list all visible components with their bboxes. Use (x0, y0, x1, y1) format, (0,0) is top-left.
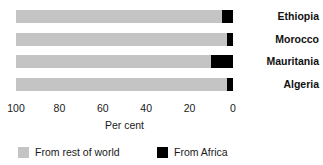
legend-label-rest-of-world: From rest of world (35, 146, 120, 158)
category-label-algeria: Algeria (283, 78, 319, 91)
bar-segment-rest-of-world (16, 10, 222, 23)
x-axis-tick-label: 0 (230, 101, 236, 115)
x-axis-tick-label: 40 (140, 101, 152, 115)
bar-row (16, 55, 233, 68)
x-axis-tick-label: 60 (97, 101, 109, 115)
bar-row (16, 33, 233, 46)
legend-item-rest-of-world: From rest of world (18, 143, 120, 161)
category-axis-labels: Ethiopia Morocco Mauritania Algeria (236, 8, 321, 100)
legend-item-africa: From Africa (157, 143, 228, 161)
bar-segment-africa (211, 55, 233, 68)
bar-segment-rest-of-world (16, 55, 211, 68)
bar-segment-rest-of-world (16, 33, 226, 46)
x-axis-tick-label: 80 (54, 101, 66, 115)
bar-segment-rest-of-world (16, 78, 226, 91)
x-axis-tick-label: 100 (7, 101, 25, 115)
bar-segment-africa (222, 10, 233, 23)
x-axis-title: Per cent (16, 119, 233, 131)
legend-swatch-africa (157, 147, 168, 158)
category-label-mauritania: Mauritania (266, 55, 319, 68)
chart-legend: From rest of world From Africa (0, 143, 323, 161)
category-label-ethiopia: Ethiopia (278, 10, 319, 23)
legend-label-africa: From Africa (174, 146, 228, 158)
bar-segment-africa (227, 33, 234, 46)
bar-row (16, 78, 233, 91)
legend-swatch-rest-of-world (18, 147, 29, 158)
category-label-morocco: Morocco (275, 33, 319, 46)
bar-chart: Ethiopia Morocco Mauritania Algeria 100 … (0, 0, 323, 165)
x-axis: 100 80 60 40 20 0 (16, 101, 233, 115)
x-axis-tick-label: 20 (184, 101, 196, 115)
bar-row (16, 10, 233, 23)
plot-area (16, 8, 233, 100)
bar-segment-africa (227, 78, 234, 91)
